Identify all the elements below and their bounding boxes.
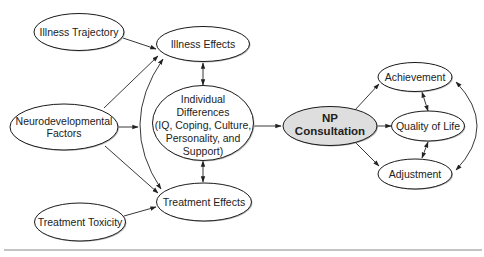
node-label: Achievement	[385, 71, 446, 83]
node-label-line-1: Individual	[181, 93, 225, 105]
node-label-line-2: Factors	[46, 127, 81, 139]
diagram-canvas: Illness Trajectory Neurodevelopmental Fa…	[0, 0, 484, 257]
node-achievement: Achievement	[378, 63, 453, 93]
node-label: Illness Effects	[171, 38, 236, 50]
node-label-line-5: Support)	[183, 145, 223, 157]
edge-achievement-quality	[422, 92, 428, 111]
node-quality-of-life: Quality of Life	[392, 111, 466, 142]
node-label-line-4: Personality, and	[166, 132, 241, 144]
node-illness-trajectory: Illness Trajectory	[34, 14, 125, 52]
node-label-line-2: Differences	[177, 106, 230, 118]
node-np-consultation: NP Consultation	[283, 107, 378, 147]
node-label: Treatment Effects	[163, 196, 245, 208]
edge-np-to-achievement	[355, 84, 379, 110]
node-neurodevelopmental-factors: Neurodevelopmental Factors	[10, 104, 119, 151]
node-label-line-1: Neurodevelopmental	[16, 115, 113, 127]
node-label: Illness Trajectory	[40, 26, 120, 38]
node-treatment-toxicity: Treatment Toxicity	[35, 203, 127, 242]
edge-quality-adjustment	[422, 142, 428, 158]
node-label: Treatment Toxicity	[38, 216, 123, 228]
node-illness-effects: Illness Effects	[157, 27, 251, 63]
node-label-line-2: Consultation	[295, 125, 365, 137]
node-label-line-1: NP	[322, 112, 338, 124]
node-adjustment: Adjustment	[378, 159, 453, 190]
node-treatment-effects: Treatment Effects	[157, 183, 253, 222]
node-label: Quality of Life	[396, 120, 460, 132]
edge-toxicity-to-treatment-effects	[124, 207, 156, 216]
node-label: Adjustment	[389, 168, 442, 180]
node-label-line-3: (IQ, Coping, Culture,	[155, 119, 251, 131]
edge-np-to-adjustment	[355, 142, 379, 166]
edge-trajectory-to-illness-effects	[123, 38, 156, 49]
node-individual-differences: Individual Differences (IQ, Coping, Cult…	[153, 86, 255, 162]
